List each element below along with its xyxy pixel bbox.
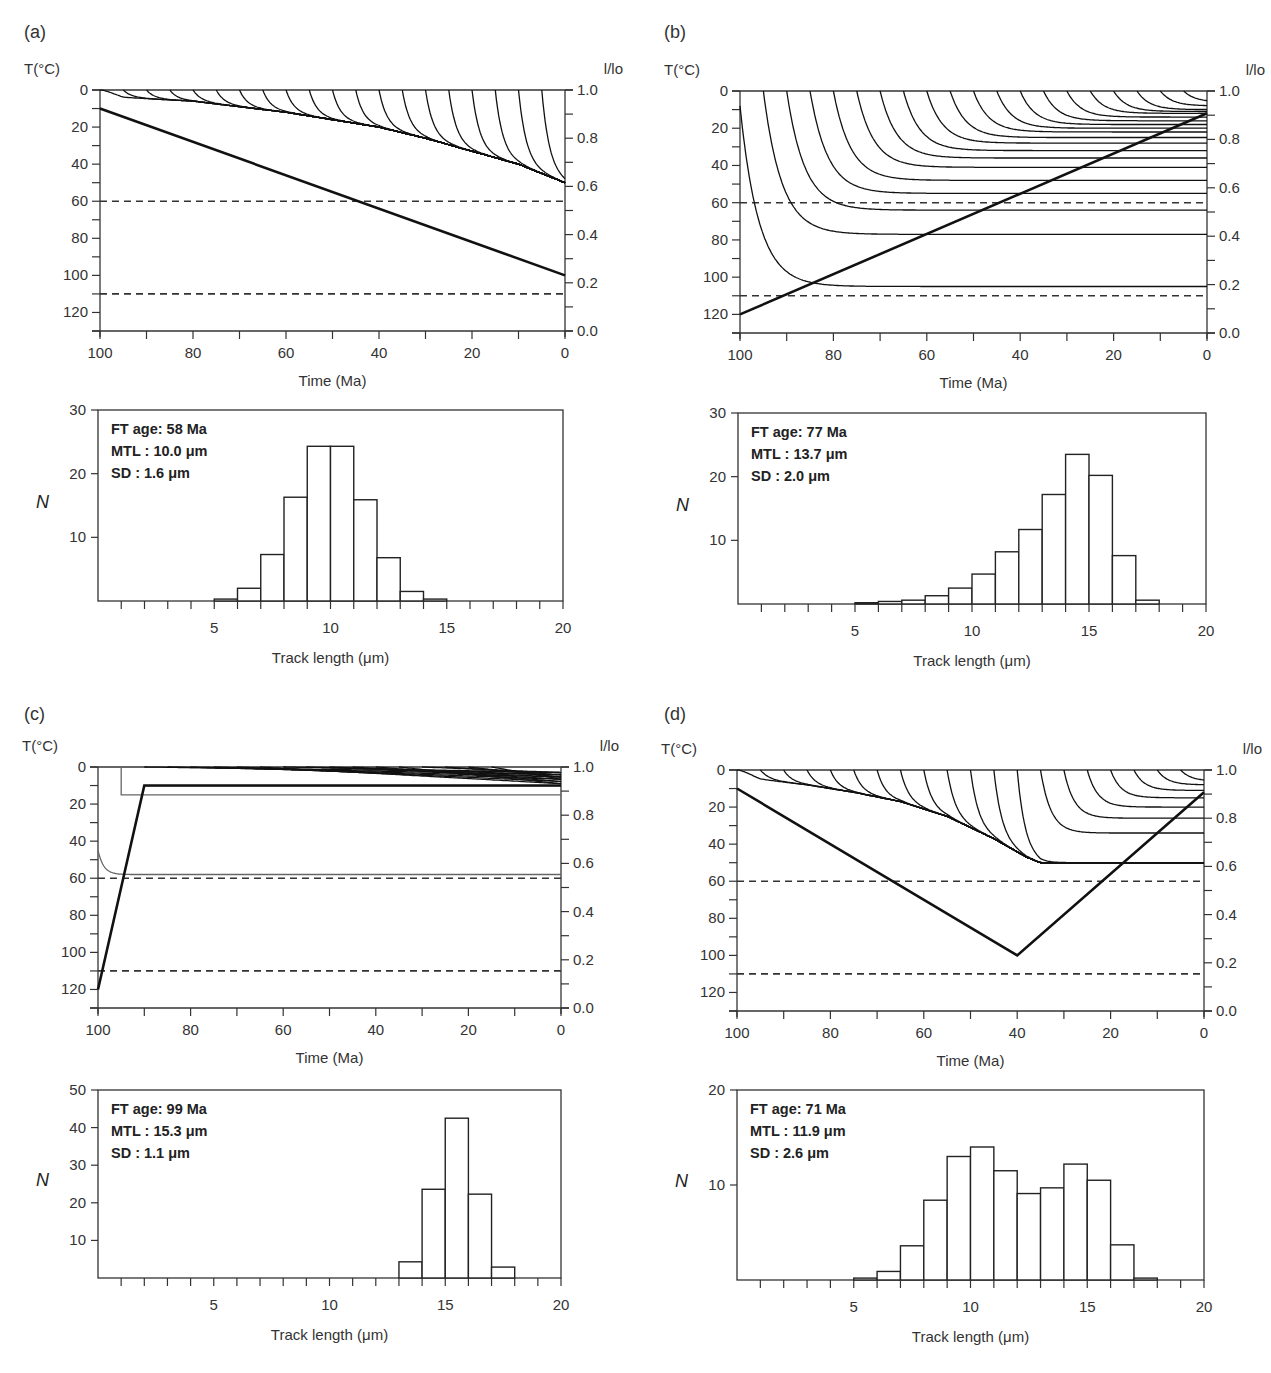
- track-reduction-curve: [1160, 91, 1207, 106]
- y-tick-label: 60: [708, 872, 725, 889]
- y-tick-label: 20: [708, 1081, 725, 1098]
- x-tick-label: 40: [1009, 1024, 1026, 1041]
- ratio-axis-title: l/lo: [600, 737, 619, 754]
- y-tick-label: 80: [71, 229, 88, 246]
- time-axis-title: Time (Ma): [937, 1052, 1005, 1069]
- ft-age-text: FT age: 77 Ma: [751, 424, 848, 440]
- y2-tick-label: 0.6: [573, 854, 594, 871]
- y-tick-label: 80: [711, 231, 728, 248]
- y2-tick-label: 0.2: [1219, 276, 1240, 293]
- figure-canvas: (a) (b) (c) (d) 0204060801001200.00.20.4…: [0, 0, 1271, 1373]
- panel-label-d: (d): [664, 704, 686, 724]
- track-length-histogram-c: 51015201020304050NTrack length (μm)FT ag…: [36, 1081, 569, 1343]
- time-temperature-plot-d: 0204060801001200.00.20.40.60.81.01008060…: [661, 740, 1262, 1069]
- track-reduction-curve: [947, 770, 1204, 863]
- y2-tick-label: 0.8: [577, 129, 598, 146]
- track-reduction-curve: [877, 770, 1204, 863]
- temperature-axis-title: T(°C): [664, 61, 700, 78]
- y-tick-label: 80: [69, 906, 86, 923]
- histogram-bar: [377, 558, 400, 601]
- histogram-bar: [1112, 556, 1135, 604]
- x-tick-label: 80: [825, 346, 842, 363]
- histogram-bar: [902, 600, 925, 604]
- y-tick-label: 60: [71, 192, 88, 209]
- y-tick-label: 0: [78, 758, 86, 775]
- histogram-bar: [1019, 530, 1042, 604]
- y2-tick-label: 0.8: [1216, 809, 1237, 826]
- x-tick-label: 0: [561, 344, 569, 361]
- y2-tick-label: 0.0: [1216, 1002, 1237, 1019]
- x-tick-label: 20: [1196, 1298, 1213, 1315]
- histogram-bar: [354, 500, 377, 601]
- panel-label-a: (a): [24, 22, 46, 42]
- histogram-bar: [445, 1118, 468, 1278]
- histogram-bar: [1064, 1164, 1087, 1280]
- x-tick-label: 0: [1203, 346, 1211, 363]
- histogram-bar: [1017, 1194, 1040, 1280]
- y-tick-label: 40: [711, 156, 728, 173]
- track-reduction-curve: [309, 90, 565, 183]
- y2-tick-label: 0.2: [577, 274, 598, 291]
- histogram-bar: [854, 1278, 877, 1280]
- x-tick-label: 20: [555, 619, 572, 636]
- mtl-text: MTL : 10.0 μm: [111, 443, 207, 459]
- y-tick-label: 0: [720, 82, 728, 99]
- y-tick-label: 30: [709, 404, 726, 421]
- length-axis-title: Track length (μm): [913, 652, 1030, 669]
- time-temperature-plot-c: 0204060801001200.00.20.40.60.81.01008060…: [22, 737, 619, 1066]
- histogram-bar: [492, 1267, 515, 1278]
- track-reduction-curve: [1114, 91, 1207, 112]
- ft-age-text: FT age: 71 Ma: [750, 1101, 847, 1117]
- track-reduction-curve: [857, 91, 1207, 167]
- x-tick-label: 5: [850, 1298, 858, 1315]
- histogram-bar: [1089, 475, 1112, 604]
- histogram-bar: [468, 1194, 491, 1278]
- x-tick-label: 100: [85, 1021, 110, 1038]
- histogram-bar: [994, 1171, 1017, 1280]
- temperature-axis-title: T(°C): [661, 740, 697, 757]
- track-reduction-curve: [807, 770, 1204, 863]
- length-axis-title: Track length (μm): [271, 1326, 388, 1343]
- track-length-histogram-a: 5101520102030NTrack length (μm)FT age: 5…: [36, 401, 571, 666]
- y-tick-label: 10: [69, 528, 86, 545]
- x-tick-label: 5: [851, 622, 859, 639]
- time-temperature-plot-b: 0204060801001200.00.20.40.60.81.01008060…: [664, 61, 1265, 391]
- track-reduction-curve: [542, 90, 565, 179]
- track-reduction-curve: [472, 90, 565, 183]
- y-tick-label: 100: [703, 268, 728, 285]
- y-tick-label: 80: [708, 909, 725, 926]
- count-axis-title: N: [675, 1171, 689, 1191]
- y2-tick-label: 1.0: [577, 81, 598, 98]
- track-reduction-curve: [854, 770, 1204, 863]
- y-tick-label: 20: [69, 465, 86, 482]
- sd-text: SD : 2.6 μm: [750, 1145, 829, 1161]
- track-length-histogram-b: 5101520102030NTrack length (μm)FT age: 7…: [676, 404, 1214, 669]
- x-tick-label: 40: [367, 1021, 384, 1038]
- temperature-path-line: [740, 113, 1207, 314]
- y-tick-label: 20: [71, 118, 88, 135]
- y2-tick-label: 0.0: [577, 322, 598, 339]
- ratio-axis-title: l/lo: [604, 60, 623, 77]
- x-tick-label: 0: [1200, 1024, 1208, 1041]
- count-axis-title: N: [676, 495, 690, 515]
- y2-tick-label: 0.6: [1216, 857, 1237, 874]
- histogram-bar: [422, 1189, 445, 1278]
- track-reduction-curve: [1041, 770, 1205, 833]
- panel-label-c: (c): [24, 704, 45, 724]
- ratio-axis-title: l/lo: [1246, 61, 1265, 78]
- y2-tick-label: 0.2: [573, 951, 594, 968]
- x-tick-label: 10: [321, 1296, 338, 1313]
- histogram-bar: [331, 446, 354, 601]
- track-reduction-curve: [147, 90, 566, 183]
- y2-tick-label: 1.0: [1216, 761, 1237, 778]
- count-axis-title: N: [36, 492, 50, 512]
- track-reduction-curve: [123, 90, 565, 183]
- y-tick-label: 40: [69, 832, 86, 849]
- histogram-bar: [1041, 1188, 1064, 1280]
- track-reduction-curve: [240, 90, 566, 183]
- mtl-text: MTL : 15.3 μm: [111, 1123, 207, 1139]
- y-tick-label: 60: [69, 869, 86, 886]
- track-reduction-curve: [1087, 770, 1204, 807]
- x-tick-label: 15: [1079, 1298, 1096, 1315]
- count-axis-title: N: [36, 1170, 50, 1190]
